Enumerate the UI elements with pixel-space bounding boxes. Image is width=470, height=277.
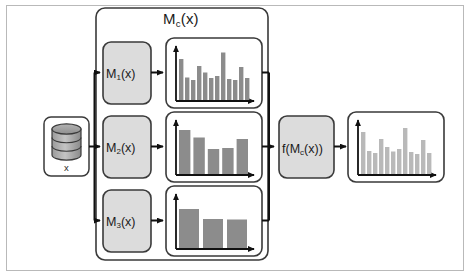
chart-bar [191,80,195,100]
datastore-label: x [64,163,69,173]
diagram-graphics [0,0,470,277]
chart-bar [421,140,425,174]
chart-bar [179,130,190,174]
database-cylinder-icon [52,124,81,160]
chart-bar [361,132,365,174]
chart-panel-m2 [166,112,262,182]
chart-bar [209,78,213,100]
chart-bar [215,76,219,100]
chart-panel-output [348,112,444,182]
chart-bar [221,53,225,101]
chart-bar [203,73,207,101]
chart-bar [227,220,247,249]
chart-bar [197,66,201,100]
chart-bar [233,80,237,100]
chart-bar [193,138,204,175]
chart-bar [427,153,431,174]
chart-bar [245,78,249,100]
chart-bar [179,209,199,248]
chart-bar [397,149,401,174]
diagram-canvas: Mc(x) M1(x) M2(x) M3(x) f(Mc(x)) x [0,0,470,277]
model-label-m2: M2(x) [106,142,135,155]
chart-bar [185,78,189,101]
chart-bar [208,149,219,174]
fanout-bus [89,73,95,221]
chart-bar [222,148,233,174]
chart-panel-m3 [166,186,262,256]
chart-bar [367,151,371,174]
chart-bar [409,152,413,174]
chart-bar [415,154,419,174]
chart-bar [239,67,243,100]
mc-group-title: Mc(x) [163,11,199,26]
chart-panel-m1 [166,38,262,108]
chart-bar [237,139,248,174]
chart-bar [379,139,383,174]
chart-bar [227,79,231,100]
chart-bar [203,219,223,248]
merge-bus [262,73,274,221]
chart-bar [179,59,183,100]
aggregator-label: f(Mc(x)) [282,143,323,156]
chart-bar [385,147,389,174]
chart-bar [403,128,407,174]
model-label-m1: M1(x) [106,68,135,81]
chart-bar [373,153,377,174]
chart-bar [391,152,395,175]
model-label-m3: M3(x) [106,216,135,229]
